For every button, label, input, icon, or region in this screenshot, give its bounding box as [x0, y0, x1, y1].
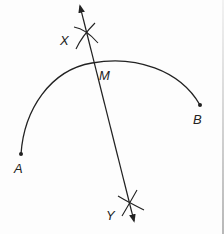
diagram-svg — [0, 0, 224, 234]
label-m: M — [99, 69, 110, 82]
perpendicular-bisector-line — [80, 6, 134, 221]
point-a-dot — [19, 152, 23, 156]
compass-cross-x — [74, 23, 98, 49]
construction-diagram: X M B A Y — [0, 0, 224, 234]
point-b-dot — [198, 103, 202, 107]
label-x: X — [60, 34, 69, 47]
compass-cross-y — [118, 190, 144, 216]
arc-ab — [21, 61, 200, 154]
page-edge-shadow — [222, 0, 224, 234]
label-y: Y — [106, 209, 115, 222]
label-b: B — [193, 113, 202, 126]
label-a: A — [14, 162, 23, 175]
